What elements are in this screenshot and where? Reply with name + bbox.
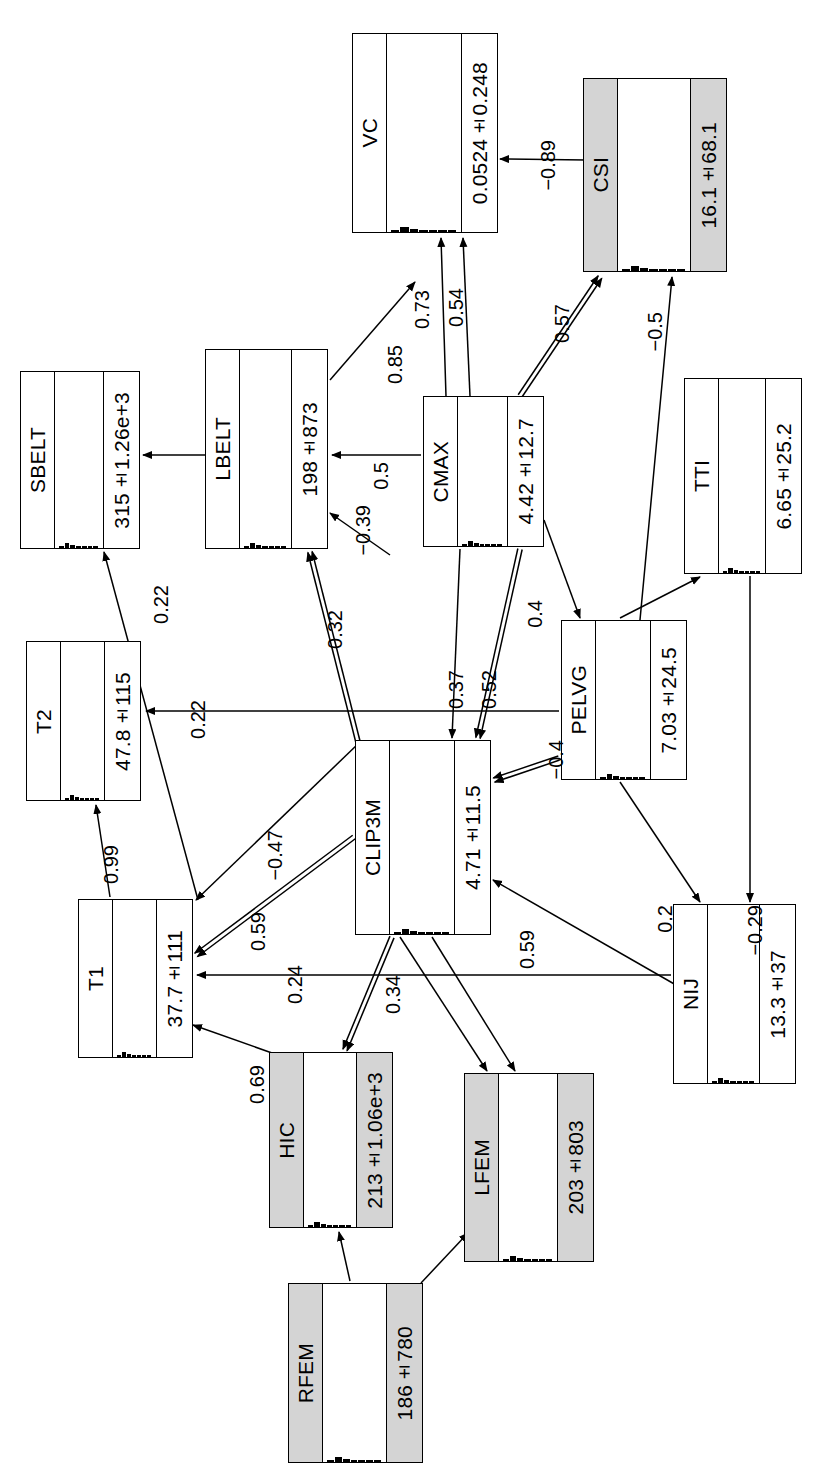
histogram-bar	[419, 230, 427, 232]
node-label: CSI	[589, 157, 613, 193]
histogram-bar	[723, 571, 727, 573]
histogram-bar	[497, 544, 502, 546]
node-value: 198±873	[298, 402, 322, 496]
node-t1[interactable]: T137.7±111	[78, 899, 193, 1058]
edge-rfem-to-lfem	[421, 1233, 468, 1283]
histogram-bar	[335, 1457, 342, 1462]
histogram-bar	[256, 545, 261, 548]
node-lbelt[interactable]: LBELT198±873	[205, 349, 328, 549]
histogram-bar	[734, 570, 738, 573]
node-value: 37.7±111	[163, 930, 187, 1027]
node-value: 203±803	[564, 1120, 588, 1214]
node-lfem[interactable]: LFEM203±803	[464, 1073, 594, 1262]
histogram-bar	[510, 1256, 516, 1261]
histogram-bar	[333, 1225, 338, 1227]
node-pelvg[interactable]: PELVG7.03±24.5	[561, 620, 687, 780]
node-rfem[interactable]: RFEM186±780	[288, 1283, 423, 1463]
histogram-bar	[374, 1460, 381, 1462]
histogram-bar	[262, 546, 267, 548]
node-clip3m[interactable]: CLIP3M4.71±11.5	[355, 740, 491, 935]
histogram-bar	[728, 568, 732, 573]
histogram-bar	[65, 543, 70, 548]
edge-weight-label: −0.39	[352, 505, 375, 556]
node-histogram	[719, 379, 765, 573]
histogram-bar	[358, 1460, 365, 1462]
node-histogram	[61, 642, 104, 800]
node-title-band: NIJ	[674, 905, 708, 1083]
node-value: 7.03±24.5	[657, 647, 681, 754]
node-label: CMAX	[429, 441, 453, 502]
node-sbelt[interactable]: SBELT315±1.26e+3	[20, 371, 140, 549]
node-value: 0.0524±0.248	[468, 62, 492, 204]
node-label: CLIP3M	[361, 799, 385, 876]
node-label: RFEM	[294, 1343, 318, 1403]
histogram-bar	[485, 544, 490, 546]
histogram-bar	[76, 546, 81, 548]
histogram-bar	[442, 932, 449, 934]
histogram-bar	[82, 546, 87, 548]
node-histogram	[55, 372, 103, 548]
histogram-bar	[620, 777, 626, 779]
node-vc[interactable]: VC0.0524±0.248	[352, 33, 498, 233]
node-histogram	[596, 621, 650, 779]
node-t2[interactable]: T247.8±115	[26, 641, 141, 801]
node-value: 4.71±11.5	[461, 785, 485, 890]
histogram-bar	[448, 230, 456, 232]
node-value-band: 186±780	[386, 1284, 422, 1462]
histogram-bar	[314, 1222, 319, 1227]
histogram-bar	[137, 1055, 141, 1057]
node-value: 315±1.26e+3	[110, 392, 134, 529]
histogram-bar	[327, 1225, 332, 1227]
histogram-bar	[327, 1460, 334, 1462]
histogram-bar	[438, 230, 446, 232]
edge-weight-label: −0.4	[545, 740, 568, 779]
histogram-bar	[429, 230, 437, 232]
histogram-bar	[474, 543, 479, 546]
node-title-band: SBELT	[21, 372, 55, 548]
node-csi[interactable]: CSI16.1±68.1	[583, 78, 727, 272]
histogram-bar	[639, 777, 645, 779]
edge-weight-label: 0.59	[516, 930, 539, 969]
node-value-band: 213±1.06e+3	[356, 1053, 392, 1227]
node-cmax[interactable]: CMAX4.42±12.7	[423, 396, 544, 547]
node-value-band: 4.42±12.7	[507, 397, 543, 546]
edge-weight-label: 0.34	[382, 975, 405, 1014]
histogram-bar	[613, 776, 619, 779]
node-hic[interactable]: HIC213±1.06e+3	[269, 1052, 393, 1228]
node-histogram	[390, 741, 454, 934]
histogram-bar	[649, 269, 657, 271]
histogram-bar	[142, 1055, 146, 1057]
node-value-band: 203±803	[557, 1074, 593, 1261]
histogram-bar	[339, 1225, 344, 1227]
histogram-bar	[524, 1259, 530, 1261]
histogram-bar	[80, 798, 84, 800]
node-title-band: LFEM	[465, 1074, 499, 1261]
node-histogram	[499, 1074, 557, 1261]
node-label: LBELT	[211, 417, 235, 481]
histogram-bar	[308, 1225, 313, 1227]
histogram-bar	[756, 571, 760, 573]
node-value: 186±780	[393, 1326, 417, 1420]
histogram-bar	[88, 546, 93, 548]
histogram-bar	[517, 1258, 523, 1261]
node-nij[interactable]: NIJ13.3±37	[673, 904, 796, 1084]
node-tti[interactable]: TTI6.65±25.2	[684, 378, 802, 574]
node-label: LFEM	[470, 1139, 494, 1196]
histogram-bar	[281, 546, 286, 548]
histogram-bar	[394, 932, 401, 934]
edge-weight-label: 0.54	[445, 288, 468, 327]
edge-weight-label: 0.73	[411, 290, 434, 329]
histogram-bar	[677, 269, 685, 271]
node-label: T2	[32, 709, 56, 734]
edge-weight-label: 0.37	[445, 670, 468, 709]
histogram-bar	[59, 546, 64, 548]
node-title-band: HIC	[270, 1053, 304, 1227]
node-histogram	[323, 1284, 386, 1462]
histogram-bar	[491, 544, 496, 546]
histogram-bar	[718, 1078, 723, 1083]
histogram-bar	[737, 1081, 742, 1083]
histogram-bar	[127, 1054, 131, 1057]
histogram-bar	[532, 1259, 538, 1261]
histogram-bar	[739, 571, 743, 573]
histogram-bar	[410, 931, 417, 934]
